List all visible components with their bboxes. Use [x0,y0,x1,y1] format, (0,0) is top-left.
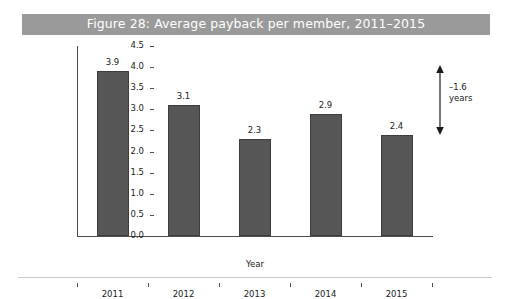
y-axis-tick-mark [150,130,154,131]
x-axis-tick-mark [219,283,220,287]
bar-value-label: 2.4 [377,121,417,131]
bar [381,135,413,236]
x-axis-tick-mark [361,283,362,287]
y-axis-tick-mark [150,88,154,89]
y-axis-tick-label: 3.5 [130,82,144,92]
annotation-label-line2: years [449,93,472,104]
y-axis-tick-mark [150,67,154,68]
bottom-divider [18,277,492,278]
x-axis-category-label: 2012 [159,289,209,299]
payback-reduction-annotation: –1.6 years [424,62,500,138]
y-axis-tick-label: 2.5 [130,124,144,134]
x-axis-title: Year [77,259,433,269]
bar [97,71,129,236]
y-axis-tick-mark [150,215,154,216]
y-axis-tick-label: 2.0 [130,146,144,156]
figure-title: Figure 28: Average payback per member, 2… [87,18,425,31]
x-axis-tick-mark [148,283,149,287]
bar-value-label: 2.3 [235,125,275,135]
y-axis-tick-mark [150,109,154,110]
x-axis-category-label: 2011 [88,289,138,299]
bar-value-label: 2.9 [306,100,346,110]
bar-value-label: 3.1 [164,91,204,101]
y-axis-tick-mark [150,46,154,47]
x-axis-tick-mark [290,283,291,287]
x-axis-tick-mark [432,283,433,287]
y-axis-tick-label: 1.5 [130,167,144,177]
bar [239,139,271,236]
y-axis-tick-label: 0.0 [130,230,144,240]
y-axis-tick-label: 3.0 [130,103,144,113]
annotation-label-line1: –1.6 [449,82,472,93]
y-axis-tick-label: 0.5 [130,209,144,219]
y-axis-tick-mark [150,152,154,153]
y-axis-tick-mark [150,236,154,237]
figure-title-bar: Figure 28: Average payback per member, 2… [22,14,490,35]
y-axis-tick-mark [150,194,154,195]
y-axis-tick-label: 4.5 [130,40,144,50]
x-axis-category-label: 2015 [372,289,422,299]
x-axis-category-label: 2014 [301,289,351,299]
x-axis-category-label: 2013 [230,289,280,299]
bar [310,114,342,236]
bar-value-label: 3.9 [93,57,133,67]
x-axis-tick-mark [77,283,78,287]
annotation-label: –1.6 years [449,82,472,104]
plot-area: Payback (years) 0.00.51.01.52.02.53.03.5… [77,46,432,236]
bar [168,105,200,236]
y-axis-tick-mark [150,173,154,174]
y-axis-tick-label: 1.0 [130,188,144,198]
